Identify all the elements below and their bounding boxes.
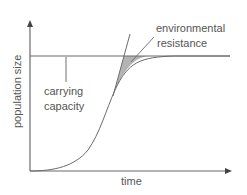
environmental-resistance-area	[115, 56, 150, 90]
carrying-capacity-label-line1: carrying	[44, 85, 83, 97]
logistic-growth-curve	[30, 56, 230, 171]
carrying-capacity-label-line2: capacity	[44, 100, 85, 112]
x-axis-label: time	[121, 175, 142, 187]
x-axis-arrow-icon	[225, 168, 232, 174]
environmental-resistance-label-line2: resistance	[157, 37, 207, 49]
y-axis-label: population size	[11, 55, 23, 128]
environmental-resistance-label-line1: environmental	[156, 22, 225, 34]
y-axis-arrow-icon	[27, 20, 33, 27]
population-growth-diagram: population size time carrying capacity e…	[0, 0, 247, 195]
